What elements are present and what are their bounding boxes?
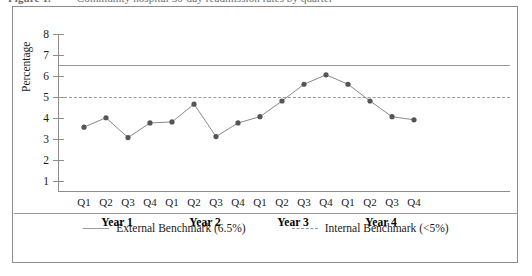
figure-frame: Percentage 87654321 Q1Q2Q3Q4Q1Q2Q3Q4Q1Q2… [12, 6, 518, 263]
y-tick-label-5: 5 [43, 91, 49, 103]
data-point-year-1-q4 [147, 120, 152, 125]
legend-dashed-line-icon [292, 228, 318, 229]
x-label-year-1-q4: Q4 [143, 196, 156, 208]
y-tick-label-7: 7 [43, 49, 49, 61]
chart-plot-area: Percentage 87654321 Q1Q2Q3Q4Q1Q2Q3Q4Q1Q2… [58, 34, 510, 184]
x-label-year-3-q3: Q3 [297, 196, 310, 208]
data-point-year-4-q3 [389, 114, 394, 119]
x-label-year-4-q1: Q1 [341, 196, 354, 208]
legend-item-internal: Internal Benchmark (<5%) [292, 222, 449, 234]
data-point-year-1-q1 [81, 125, 86, 130]
data-point-year-3-q4 [323, 72, 328, 77]
x-label-year-4-q4: Q4 [407, 196, 420, 208]
x-label-year-2-q1: Q1 [165, 196, 178, 208]
y-axis-title: Percentage [20, 42, 32, 92]
legend-divider [14, 213, 518, 214]
data-point-year-3-q2 [279, 98, 284, 103]
x-label-year-2-q4: Q4 [231, 196, 244, 208]
x-label-year-1-q3: Q3 [121, 196, 134, 208]
x-label-year-2-q3: Q3 [209, 196, 222, 208]
data-point-year-2-q1 [169, 119, 174, 124]
data-point-year-4-q2 [367, 98, 372, 103]
data-point-year-1-q3 [125, 135, 130, 140]
y-tick-label-6: 6 [43, 70, 49, 82]
y-tick-label-4: 4 [43, 112, 49, 124]
data-point-year-2-q3 [213, 134, 218, 139]
y-tick-label-2: 2 [43, 154, 49, 166]
figure-caption-label: Figure 1. [8, 0, 51, 4]
figure-caption-text: Community hospital 30-day readmission ra… [77, 0, 333, 4]
legend-solid-line-icon [83, 228, 109, 229]
data-point-year-2-q2 [191, 102, 196, 107]
y-tick-label-3: 3 [43, 133, 49, 145]
legend-item-external: External Benchmark (6.5%) [83, 222, 245, 234]
series-line [84, 75, 414, 138]
x-label-year-4-q3: Q3 [385, 196, 398, 208]
y-tick-label-1: 1 [43, 175, 49, 187]
y-tick-label-8: 8 [43, 28, 49, 40]
x-label-year-2-q2: Q2 [187, 196, 200, 208]
chart-legend: External Benchmark (6.5%) Internal Bench… [13, 222, 519, 234]
data-point-year-2-q4 [235, 120, 240, 125]
x-label-year-4-q2: Q2 [363, 196, 376, 208]
legend-label-external: External Benchmark (6.5%) [116, 222, 245, 234]
data-point-year-1-q2 [103, 115, 108, 120]
legend-label-internal: Internal Benchmark (<5%) [325, 222, 449, 234]
data-point-year-3-q3 [301, 82, 306, 87]
series-line-chart [58, 34, 510, 191]
x-axis-line [58, 191, 510, 192]
x-label-year-3-q1: Q1 [253, 196, 266, 208]
x-label-year-1-q2: Q2 [99, 196, 112, 208]
data-point-year-4-q4 [411, 117, 416, 122]
x-label-year-1-q1: Q1 [77, 196, 90, 208]
figure-caption: Figure 1.Community hospital 30-day readm… [8, 0, 333, 4]
x-label-year-3-q2: Q2 [275, 196, 288, 208]
x-label-year-3-q4: Q4 [319, 196, 332, 208]
data-point-year-3-q1 [257, 114, 262, 119]
data-point-year-4-q1 [345, 82, 350, 87]
